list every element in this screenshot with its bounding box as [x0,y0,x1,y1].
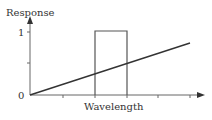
linear-response-curve [30,43,190,95]
y-axis-label: Response [6,7,55,18]
origin-label: 0 [18,90,24,101]
response-vs-wavelength-diagram: Response 1 0 Wavelength [0,0,212,120]
y-tick-label-1: 1 [18,27,24,38]
box-response-curve [95,31,127,95]
x-axis-label: Wavelength [84,101,144,112]
x-axis-arrow-icon [197,92,205,98]
